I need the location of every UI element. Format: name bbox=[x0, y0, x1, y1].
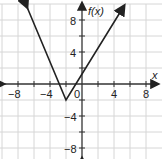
function-graph: f(x) x −8 −4 0 4 8 8 4 −4 −8 bbox=[0, 0, 162, 159]
grid bbox=[0, 4, 162, 159]
x-tick-label: −8 bbox=[8, 89, 21, 100]
x-tick-label: −4 bbox=[40, 89, 53, 100]
x-tick-label: 4 bbox=[111, 89, 117, 100]
origin-label: 0 bbox=[74, 89, 80, 100]
axes bbox=[4, 3, 158, 158]
y-axis-label: f(x) bbox=[88, 6, 104, 17]
y-tick-label: −4 bbox=[64, 112, 77, 123]
y-tick-label: 4 bbox=[70, 48, 76, 59]
x-tick-label: 8 bbox=[143, 89, 149, 100]
x-axis-label: x bbox=[152, 70, 158, 81]
y-tick-label: 8 bbox=[70, 16, 76, 27]
graph-canvas bbox=[0, 0, 162, 159]
y-tick-label: −8 bbox=[64, 144, 77, 155]
